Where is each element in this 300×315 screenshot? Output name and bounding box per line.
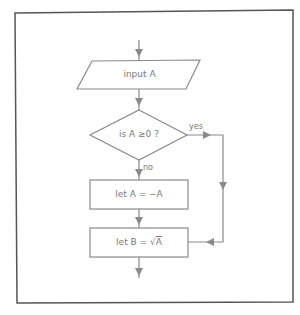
exit-arrow (135, 257, 143, 278)
yes-label: yes (189, 123, 203, 131)
entry-arrow (135, 40, 143, 61)
sqrt-node-label-arg: A (156, 236, 162, 247)
input-to-decision-arrow (135, 89, 143, 110)
flowchart-canvas (0, 0, 300, 315)
no-label: no (143, 164, 153, 172)
decision-node-label: is A ≥0 ? (95, 130, 183, 139)
sqrt-node-label: let B = √A (90, 238, 188, 247)
negate-to-sqrt-arrow (135, 209, 143, 228)
input-node-label: input A (92, 70, 187, 79)
yes-branch-connector (187, 131, 227, 246)
negate-node-label: let A = −A (90, 190, 188, 199)
sqrt-node-label-prefix: let B = √ (116, 237, 156, 247)
outer-frame (15, 10, 293, 303)
no-branch-arrow (135, 160, 143, 180)
